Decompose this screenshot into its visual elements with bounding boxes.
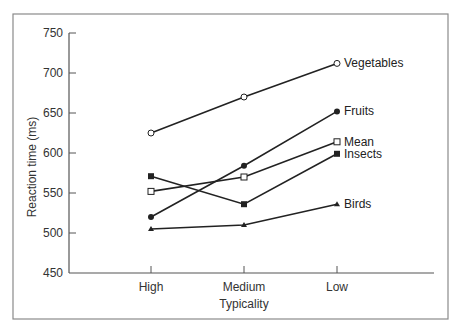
x-tick-label-high: High bbox=[139, 280, 164, 294]
y-axis: 450500550600650700750 bbox=[43, 26, 76, 280]
series-birds: Birds bbox=[148, 197, 371, 231]
y-axis-title: Reaction time (ms) bbox=[25, 117, 39, 218]
y-tick-label: 450 bbox=[43, 266, 63, 280]
series-layer: VegetablesFruitsMeanInsectsBirds bbox=[148, 56, 403, 231]
filled-square-marker bbox=[148, 173, 154, 179]
filled-circle-marker bbox=[148, 214, 154, 220]
y-tick-label: 550 bbox=[43, 186, 63, 200]
x-tick-label-medium: Medium bbox=[223, 280, 266, 294]
filled-square-marker bbox=[241, 201, 247, 207]
line-chart: 450500550600650700750 HighMediumLow Reac… bbox=[0, 0, 466, 333]
y-tick-label: 700 bbox=[43, 66, 63, 80]
filled-triangle-marker bbox=[334, 201, 340, 206]
series-label: Fruits bbox=[344, 104, 374, 118]
y-tick-label: 650 bbox=[43, 106, 63, 120]
series-vegetables: Vegetables bbox=[148, 56, 403, 136]
filled-circle-marker bbox=[334, 108, 340, 114]
y-tick-label: 500 bbox=[43, 226, 63, 240]
series-label: Vegetables bbox=[344, 56, 403, 70]
x-axis-title: Typicality bbox=[219, 297, 268, 311]
filled-circle-marker bbox=[241, 163, 247, 169]
open-square-marker bbox=[334, 139, 340, 145]
open-circle-marker bbox=[334, 60, 340, 66]
open-circle-marker bbox=[241, 94, 247, 100]
x-tick-label-low: Low bbox=[326, 280, 348, 294]
series-label: Insects bbox=[344, 147, 382, 161]
y-tick-label: 750 bbox=[43, 26, 63, 40]
open-square-marker bbox=[148, 188, 154, 194]
open-square-marker bbox=[241, 174, 247, 180]
open-circle-marker bbox=[148, 130, 154, 136]
x-axis: HighMediumLow bbox=[69, 266, 434, 294]
filled-square-marker bbox=[334, 151, 340, 157]
y-tick-label: 600 bbox=[43, 146, 63, 160]
series-label: Birds bbox=[344, 197, 371, 211]
